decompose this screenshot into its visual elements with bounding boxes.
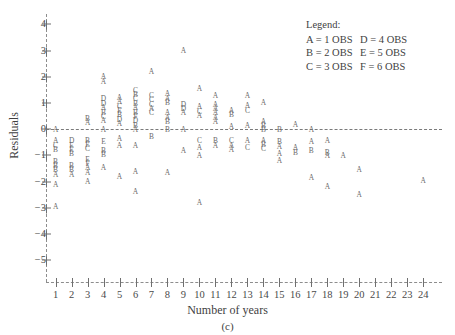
- data-marker: A: [99, 126, 109, 133]
- data-marker: C: [258, 145, 268, 152]
- x-tick-mark: [263, 278, 264, 287]
- legend-entry: E = 5 OBS: [360, 46, 406, 60]
- data-marker: A: [306, 126, 316, 133]
- y-tick-label: 0: [0, 124, 46, 134]
- data-marker: B: [258, 126, 268, 133]
- y-tick-label: 2: [0, 72, 46, 82]
- data-marker: A: [83, 178, 93, 185]
- legend-row: B = 2 OBSE = 5 OBS: [306, 46, 407, 60]
- data-marker: A: [99, 117, 109, 124]
- legend-row: A = 1 OBSD = 4 OBS: [306, 33, 407, 47]
- data-marker: A: [178, 147, 188, 154]
- x-tick-mark: [72, 278, 73, 287]
- data-marker: C: [146, 109, 156, 116]
- data-marker: A: [258, 99, 268, 106]
- data-marker: A: [354, 191, 364, 198]
- data-marker: A: [51, 126, 61, 133]
- data-marker: A: [210, 142, 220, 149]
- x-tick-mark: [231, 278, 232, 287]
- data-marker: A: [178, 109, 188, 116]
- data-marker: B: [274, 126, 284, 133]
- legend-entry: F = 6 OBS: [360, 60, 405, 74]
- data-marker: A: [131, 188, 141, 195]
- data-marker: A: [115, 120, 125, 127]
- data-marker: A: [290, 121, 300, 128]
- data-marker: A: [194, 85, 204, 92]
- x-tick-mark: [120, 278, 121, 287]
- x-tick-mark: [199, 278, 200, 287]
- legend-row: C = 3 OBSF = 6 OBS: [306, 60, 407, 74]
- x-axis-label: Number of years: [0, 303, 455, 318]
- x-tick-mark: [56, 278, 57, 287]
- x-tick-label: 24: [413, 289, 433, 300]
- x-tick-mark: [151, 278, 152, 287]
- residual-scatter-figure: Residuals 43210−1−2−3−4−5 12345678910111…: [0, 0, 455, 335]
- data-marker: C: [242, 107, 252, 114]
- data-marker: A: [338, 152, 348, 159]
- y-tick-label: −2: [0, 177, 46, 187]
- legend-entry: C = 3 OBS: [306, 60, 360, 74]
- data-marker: A: [131, 168, 141, 175]
- data-marker: B: [306, 147, 316, 154]
- data-marker: A: [162, 169, 172, 176]
- data-marker: A: [210, 92, 220, 99]
- y-tick-label: −4: [0, 229, 46, 239]
- x-tick-mark: [136, 278, 137, 287]
- legend: Legend: A = 1 OBSD = 4 OBSB = 2 OBSE = 5…: [306, 18, 407, 73]
- data-marker: A: [83, 169, 93, 176]
- data-marker: A: [242, 122, 252, 129]
- x-tick-mark: [343, 278, 344, 287]
- data-marker: A: [354, 166, 364, 173]
- data-marker: A: [115, 173, 125, 180]
- data-marker: A: [226, 123, 236, 130]
- data-marker: C: [242, 144, 252, 151]
- figure-caption: (c): [0, 320, 455, 332]
- data-marker: A: [274, 157, 284, 164]
- x-tick-mark: [104, 278, 105, 287]
- data-marker: A: [194, 112, 204, 119]
- legend-entry: D = 4 OBS: [360, 33, 407, 47]
- data-marker: A: [210, 118, 220, 125]
- y-tick-label: 3: [0, 46, 46, 56]
- legend-title: Legend:: [306, 18, 407, 32]
- data-marker: A: [83, 119, 93, 126]
- x-tick-mark: [279, 278, 280, 287]
- data-marker: A: [242, 92, 252, 99]
- data-marker: B: [290, 149, 300, 156]
- data-marker: A: [146, 68, 156, 75]
- data-marker: A: [178, 47, 188, 54]
- data-marker: B: [67, 150, 77, 157]
- data-marker: A: [178, 126, 188, 133]
- data-marker: A: [115, 142, 125, 149]
- data-marker: A: [322, 152, 332, 159]
- x-tick-mark: [359, 278, 360, 287]
- y-tick-label: −1: [0, 150, 46, 160]
- x-tick-mark: [327, 278, 328, 287]
- data-marker: C: [83, 145, 93, 152]
- y-tick-label: 4: [0, 19, 46, 29]
- data-marker: B: [99, 151, 109, 158]
- legend-entry: B = 2 OBS: [306, 46, 360, 60]
- legend-entry: A = 1 OBS: [306, 33, 360, 47]
- x-tick-mark: [311, 278, 312, 287]
- legend-rows: A = 1 OBSD = 4 OBSB = 2 OBSE = 5 OBSC = …: [306, 33, 407, 74]
- data-marker: B: [162, 126, 172, 133]
- x-tick-mark: [375, 278, 376, 287]
- data-marker: E: [99, 138, 109, 145]
- x-tick-mark: [183, 278, 184, 287]
- y-tick-label: −5: [0, 255, 46, 265]
- y-tick-label: −3: [0, 203, 46, 213]
- data-marker: B: [51, 146, 61, 153]
- x-axis-line: [46, 282, 442, 283]
- data-marker: A: [67, 171, 77, 178]
- data-marker: B: [226, 111, 236, 118]
- x-tick-mark: [215, 278, 216, 287]
- data-marker: A: [51, 171, 61, 178]
- data-marker: A: [51, 203, 61, 210]
- data-marker: A: [131, 126, 141, 133]
- y-tick-label: 1: [0, 98, 46, 108]
- data-marker: A: [51, 181, 61, 188]
- data-marker: A: [194, 152, 204, 159]
- data-marker: A: [99, 78, 109, 85]
- x-tick-mark: [295, 278, 296, 287]
